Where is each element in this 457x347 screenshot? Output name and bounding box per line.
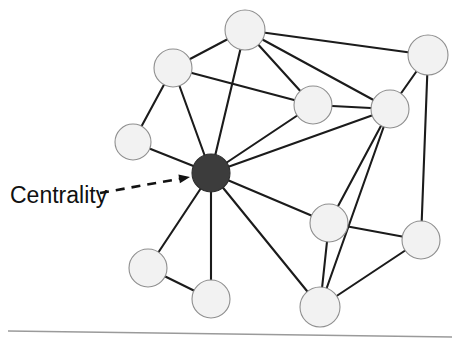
graph-node-right-mid-node[interactable] [310, 204, 348, 242]
network-diagram-figure: Centrality [0, 0, 457, 347]
graph-edge-n1-n3 [245, 30, 428, 55]
dashed-leader-line [100, 178, 184, 193]
graph-node-bottom-left-node[interactable] [192, 280, 230, 318]
graph-node-right-upper-node[interactable] [371, 90, 409, 128]
graph-node-top-right-node[interactable] [408, 35, 448, 75]
graph-node-upper-left-node[interactable] [154, 49, 192, 87]
rule-layer [8, 331, 452, 337]
graph-node-lower-left-node[interactable] [129, 249, 167, 287]
bottom-divider [8, 331, 452, 337]
graph-edge-n3-n9 [421, 55, 428, 240]
graph-node-left-node[interactable] [115, 124, 151, 160]
centrality-label: Centrality [10, 182, 108, 208]
graph-node-far-right-node[interactable] [402, 221, 440, 259]
annotation-layer: Centrality [10, 175, 190, 208]
graph-node-bottom-right-node[interactable] [300, 287, 340, 327]
graph-node-upper-mid-node[interactable] [294, 86, 332, 124]
graph-edge-n1-n7 [211, 30, 245, 173]
graph-node-center-node[interactable] [192, 154, 230, 192]
graph-node-top-node[interactable] [225, 10, 265, 50]
node-layer [115, 10, 448, 327]
diagram-canvas: Centrality [0, 0, 457, 347]
graph-edge-n2-n4 [173, 68, 313, 105]
leader-arrowhead-icon [178, 175, 190, 184]
graph-edge-n7-n12 [211, 173, 320, 307]
